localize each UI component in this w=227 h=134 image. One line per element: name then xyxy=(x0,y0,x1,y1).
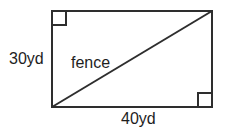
diagonal-fence-label: fence xyxy=(71,55,110,71)
right-angle-marker-top-left-icon xyxy=(52,11,66,25)
height-label: 30yd xyxy=(9,51,44,67)
width-label: 40yd xyxy=(121,111,156,127)
diagram-canvas xyxy=(0,0,227,134)
geometry-figure: 30yd fence 40yd xyxy=(0,0,227,134)
right-angle-marker-bottom-right-icon xyxy=(198,93,212,107)
